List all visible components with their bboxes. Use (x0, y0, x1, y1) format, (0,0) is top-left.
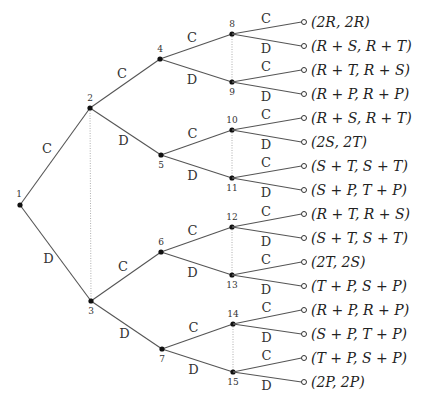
edge-3-7 (91, 301, 162, 349)
action-label-d: D (188, 362, 198, 377)
payoff-label: (T + P, S + P) (311, 350, 407, 366)
terminal-node-circle (302, 116, 307, 121)
edge-1-2 (20, 108, 90, 205)
terminal-node-circle (302, 260, 307, 265)
terminal-nodes: C(2R, 2R)D(R + S, R + T)C(R + T, R + S)D… (232, 11, 412, 393)
terminal-node-circle (302, 44, 307, 49)
payoff-label: (R + T, R + S) (311, 62, 410, 78)
node-label: 3 (88, 306, 94, 316)
terminal-node-circle (302, 284, 307, 289)
action-label-c: C (118, 259, 128, 274)
action-label-c: C (261, 252, 271, 267)
action-label-d: D (118, 133, 128, 148)
action-label-c: C (187, 30, 197, 45)
payoff-label: (2S, 2T) (311, 134, 367, 150)
action-label-d: D (187, 72, 197, 87)
payoff-label: (R + P, R + P) (311, 302, 409, 318)
payoff-label: (S + P, T + P) (311, 182, 407, 198)
decision-node-5 (158, 152, 163, 157)
node-label: 7 (159, 354, 165, 364)
edge-1-3 (20, 205, 91, 301)
action-label-c: C (189, 320, 199, 335)
action-label-d: D (261, 378, 271, 393)
node-label: 10 (226, 115, 238, 125)
tree-edges: CDCDCDCDCDCDCD (20, 30, 233, 377)
information-set-lines (90, 34, 233, 372)
action-label-d: D (261, 330, 271, 345)
payoff-label: (R + S, R + T) (311, 110, 412, 126)
action-label-d: D (261, 282, 271, 297)
terminal-node-circle (302, 236, 307, 241)
terminal-node-circle (302, 332, 307, 337)
decision-node-1 (17, 202, 22, 207)
action-label-d: D (187, 265, 197, 280)
payoff-label: (S + T, S + T) (311, 230, 408, 246)
terminal-node-circle (302, 308, 307, 313)
action-label-d: D (261, 89, 271, 104)
decision-node-4 (157, 56, 162, 61)
payoff-label: (R + P, R + P) (311, 86, 409, 102)
action-label-c: C (262, 300, 272, 315)
terminal-node-circle (302, 164, 307, 169)
payoff-label: (T + P, S + P) (311, 278, 407, 294)
decision-node-2 (87, 105, 92, 110)
action-label-d: D (119, 326, 129, 341)
action-label-c: C (261, 11, 271, 26)
terminal-node-circle (302, 188, 307, 193)
action-label-d: D (43, 251, 53, 266)
payoff-label: (S + T, S + T) (311, 158, 408, 174)
payoff-label: (R + T, R + S) (311, 206, 410, 222)
terminal-node-circle (302, 68, 307, 73)
edge-2-5 (90, 108, 161, 155)
terminal-node-circle (302, 92, 307, 97)
node-label: 15 (227, 377, 239, 387)
node-label: 4 (157, 44, 163, 54)
action-label-c: C (261, 155, 271, 170)
node-label: 8 (229, 19, 235, 29)
terminal-node-circle (302, 380, 307, 385)
action-label-c: C (261, 107, 271, 122)
action-label-d: D (261, 41, 271, 56)
action-label-c: C (188, 126, 198, 141)
payoff-label: (2R, 2R) (311, 14, 370, 30)
terminal-node-circle (302, 356, 307, 361)
terminal-node-circle (302, 20, 307, 25)
action-label-d: D (261, 137, 271, 152)
node-label: 5 (158, 160, 164, 170)
action-label-c: C (261, 204, 271, 219)
action-label-c: C (117, 66, 127, 81)
action-label-d: D (187, 168, 197, 183)
payoff-label: (2T, 2S) (311, 254, 366, 270)
node-label: 14 (227, 309, 239, 319)
information-set-line (90, 108, 91, 301)
action-label-d: D (261, 234, 271, 249)
terminal-node-circle (302, 140, 307, 145)
action-label-d: D (261, 185, 271, 200)
node-label: 1 (16, 189, 22, 199)
terminal-node-circle (302, 212, 307, 217)
payoff-label: (2P, 2P) (311, 374, 365, 390)
decision-node-6 (158, 249, 163, 254)
decision-node-3 (88, 298, 93, 303)
action-label-c: C (42, 141, 52, 156)
node-label: 2 (87, 93, 93, 103)
game-tree-diagram: CDCDCDCDCDCDCD 123456789101112131415 C(2… (0, 0, 425, 410)
payoff-label: (R + S, R + T) (311, 38, 412, 54)
decision-node-7 (159, 346, 164, 351)
node-label: 6 (158, 237, 164, 247)
node-label: 11 (226, 183, 237, 193)
node-label: 13 (226, 280, 238, 290)
action-label-c: C (188, 223, 198, 238)
action-label-c: C (262, 348, 272, 363)
node-label: 9 (229, 87, 235, 97)
payoff-label: (S + P, T + P) (311, 326, 407, 342)
node-label: 12 (226, 212, 237, 222)
action-label-c: C (261, 59, 271, 74)
